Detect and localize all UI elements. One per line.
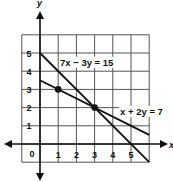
marked-point bbox=[55, 86, 62, 93]
y-axis-up-arrow-icon bbox=[36, 11, 44, 19]
equation-label: x + 2y = 7 bbox=[120, 106, 163, 117]
y-tick-label: 4 bbox=[26, 67, 31, 77]
marked-point bbox=[91, 104, 98, 111]
x-tick-label: 3 bbox=[92, 150, 97, 160]
x-tick-label: 4 bbox=[110, 150, 115, 160]
coordinate-plane-chart: yx 12345123450 7x − 3y = 15x + 2y = 7 bbox=[0, 0, 173, 182]
x-axis-left-arrow-icon bbox=[4, 140, 12, 148]
y-tick-label: 2 bbox=[26, 103, 31, 113]
y-axis-down-arrow-icon bbox=[36, 173, 44, 181]
y-tick-label: 1 bbox=[26, 121, 31, 131]
y-axis-label: y bbox=[36, 0, 43, 8]
y-tick-label: 3 bbox=[26, 85, 31, 95]
equation-label: 7x − 3y = 15 bbox=[60, 57, 114, 68]
x-tick-label: 1 bbox=[56, 150, 61, 160]
y-tick-label: 5 bbox=[26, 49, 31, 59]
x-tick-label: 5 bbox=[128, 150, 133, 160]
origin-label: 0 bbox=[29, 149, 34, 159]
x-tick-label: 2 bbox=[74, 150, 79, 160]
x-axis-label: x bbox=[168, 140, 173, 150]
x-axis-right-arrow-icon bbox=[160, 140, 168, 148]
